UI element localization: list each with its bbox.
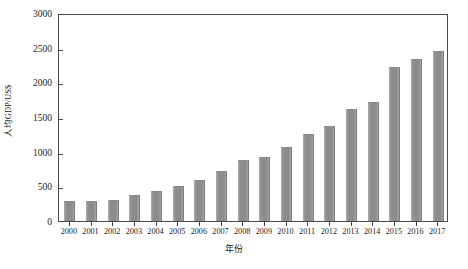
- plot-area: [58, 14, 448, 222]
- x-axis-tick-label: 2007: [212, 227, 228, 236]
- y-axis-tick-mark: [59, 154, 63, 155]
- y-axis-tick-label: 500: [38, 182, 52, 192]
- x-axis-tick-label: 2017: [429, 227, 445, 236]
- x-axis-tick-mark: [394, 222, 395, 226]
- x-axis-tick-label: 2013: [342, 227, 358, 236]
- y-axis-tick-mark: [59, 119, 63, 120]
- y-axis-tick-label: 1500: [33, 113, 52, 123]
- y-axis-title-text: 人均GDP/US$: [1, 85, 13, 137]
- bar: [389, 67, 400, 221]
- bar: [368, 102, 379, 221]
- plot-inner: [59, 15, 447, 221]
- bar: [346, 109, 357, 221]
- bar: [86, 201, 97, 221]
- x-axis-tick-label: 2016: [407, 227, 423, 236]
- y-axis-tick-mark: [59, 188, 63, 189]
- x-axis-tick-label: 2004: [147, 227, 163, 236]
- x-axis-tick-label: 2015: [386, 227, 402, 236]
- x-axis-tick-mark: [177, 222, 178, 226]
- x-axis-tick-label: 2000: [61, 227, 77, 236]
- x-axis-tick-mark: [329, 222, 330, 226]
- bar: [151, 191, 162, 222]
- bar: [108, 200, 119, 221]
- x-axis-tick-mark: [242, 222, 243, 226]
- x-axis-tick-mark: [199, 222, 200, 226]
- x-axis-tick-mark: [437, 222, 438, 226]
- x-axis-tick-mark: [416, 222, 417, 226]
- bar: [216, 171, 227, 221]
- x-axis-tick-mark: [307, 222, 308, 226]
- bar: [173, 186, 184, 221]
- x-axis-tick-label: 2005: [169, 227, 185, 236]
- x-axis-tick-mark: [372, 222, 373, 226]
- x-axis-tick-label: 2008: [234, 227, 250, 236]
- y-axis-tick-mark: [59, 50, 63, 51]
- y-axis-tick-labels: 050010001500200025003000: [14, 0, 56, 269]
- x-axis-tick-mark: [221, 222, 222, 226]
- bar: [281, 147, 292, 221]
- x-axis-tick-label: 2003: [126, 227, 142, 236]
- y-axis-tick-label: 3000: [33, 9, 52, 19]
- bar: [303, 134, 314, 221]
- x-axis-tick-mark: [286, 222, 287, 226]
- x-axis-tick-label: 2014: [364, 227, 380, 236]
- bar: [433, 51, 444, 221]
- x-axis-tick-label: 2002: [104, 227, 120, 236]
- x-axis-tick-label: 2010: [277, 227, 293, 236]
- x-axis-title: 年份: [0, 242, 468, 255]
- bar: [64, 201, 75, 221]
- bar: [238, 160, 249, 221]
- x-axis-tick-label: 2009: [256, 227, 272, 236]
- chart-figure: 人均GDP/US$ 050010001500200025003000 20002…: [0, 0, 468, 269]
- x-axis-tick-mark: [91, 222, 92, 226]
- y-axis-tick-label: 0: [47, 217, 52, 227]
- bar: [411, 59, 422, 221]
- x-axis-tick-mark: [156, 222, 157, 226]
- y-axis-title: 人均GDP/US$: [0, 0, 14, 222]
- x-axis-title-text: 年份: [225, 244, 243, 254]
- y-axis-tick-mark: [59, 84, 63, 85]
- x-axis-tick-mark: [351, 222, 352, 226]
- bar: [324, 126, 335, 221]
- x-axis-tick-mark: [69, 222, 70, 226]
- bar: [129, 195, 140, 221]
- bar: [259, 157, 270, 221]
- y-axis-tick-label: 1000: [33, 148, 52, 158]
- x-axis-tick-label: 2012: [321, 227, 337, 236]
- x-axis-tick-label: 2001: [82, 227, 98, 236]
- y-axis-tick-label: 2500: [33, 44, 52, 54]
- x-axis-tick-label: 2011: [299, 227, 315, 236]
- y-axis-tick-label: 2000: [33, 78, 52, 88]
- x-axis-tick-mark: [112, 222, 113, 226]
- x-axis-tick-mark: [134, 222, 135, 226]
- x-axis-tick-mark: [264, 222, 265, 226]
- x-axis-tick-label: 2006: [191, 227, 207, 236]
- bar: [194, 180, 205, 221]
